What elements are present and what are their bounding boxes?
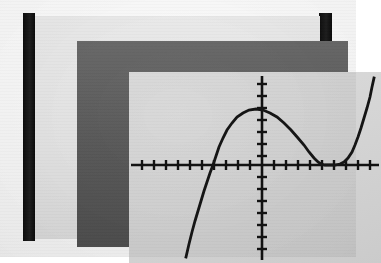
screen-bezel xyxy=(77,41,348,247)
calculator-case xyxy=(35,16,320,239)
graph-plot xyxy=(129,72,381,263)
left-dark-bar xyxy=(23,13,35,241)
lcd-screen[interactable] xyxy=(129,72,381,263)
